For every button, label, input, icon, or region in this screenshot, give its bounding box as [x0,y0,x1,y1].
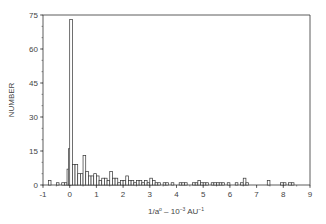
x-tick-label: 9 [308,190,313,199]
x-tick-label: 1 [94,190,99,199]
x-tick-label: 2 [121,190,126,199]
histogram-bar [48,180,51,185]
histogram-bar [150,178,153,185]
histogram-bar [83,156,86,185]
x-tick-label: 8 [281,190,286,199]
histogram-bar [110,171,113,185]
histogram-bar [126,176,129,185]
x-axis-title: 1/ao – 10−3 AU−1 [148,206,204,216]
histogram-bar [267,180,270,185]
histogram-bar [115,178,118,185]
histogram-bar [107,180,110,185]
histogram-bar [171,183,174,185]
histogram-bar [56,183,59,185]
x-tick-label: -1 [39,190,47,199]
histogram-bar [163,183,166,185]
x-axis-ticks: -10123456789 [39,185,312,199]
histogram-bar [241,183,244,185]
y-tick-label: 30 [29,113,38,122]
x-tick-label: 6 [228,190,233,199]
histogram-bar [112,178,115,185]
y-axis-title: NUMBER [7,82,16,117]
histogram-bar [214,183,217,185]
histogram-bar [152,180,155,185]
histogram-bar [243,178,246,185]
histogram-chart: -10123456789 01530456075 NUMBER 1/ao – 1… [0,0,326,224]
histogram-bar [201,183,204,185]
histogram-bar [128,180,131,185]
histogram-bar [134,183,137,185]
histogram-bar [179,183,182,185]
histogram-bar [75,165,78,185]
histogram-bar [144,180,147,185]
histogram-bar [78,174,81,185]
y-tick-label: 60 [29,45,38,54]
y-tick-label: 15 [29,147,38,156]
histogram-bar [211,183,214,185]
histogram-bar [155,183,158,185]
histogram-bar [219,183,222,185]
x-tick-label: 7 [254,190,259,199]
histogram-bar [166,183,169,185]
histogram-bar [86,171,89,185]
histogram-bar [131,180,134,185]
histogram-bar [246,183,249,185]
histogram-bar [88,176,91,185]
histogram-bar [195,183,198,185]
histogram-bar [72,165,75,185]
histogram-bar [104,178,107,185]
y-axis-ticks: 01530456075 [29,11,43,190]
histogram-bar [99,180,102,185]
histogram-bar [139,180,142,185]
histogram-bar [94,174,97,185]
histogram-bar [193,183,196,185]
histogram-bar [182,183,185,185]
histogram-bar [62,183,65,185]
x-tick-label: 4 [174,190,179,199]
y-tick-label: 0 [34,181,39,190]
histogram-bar [206,183,209,185]
histogram-bar [147,183,150,185]
histogram-bar [142,183,145,185]
y-tick-label: 45 [29,79,38,88]
x-tick-label: 0 [67,190,72,199]
x-tick-label: 5 [201,190,206,199]
histogram-bar [123,180,126,185]
histogram-bar [96,176,99,185]
x-tick-label: 3 [148,190,153,199]
y-tick-label: 75 [29,11,38,20]
histogram-bar [118,183,121,185]
histogram-bar [281,183,284,185]
histogram-bars [48,20,294,185]
histogram-bar [289,183,292,185]
histogram-bar [80,174,83,185]
histogram-bar [185,183,188,185]
histogram-bar [217,183,220,185]
histogram-bar [70,20,73,185]
histogram-bar [158,183,161,185]
histogram-bar [120,180,123,185]
histogram-bar [102,178,105,185]
histogram-bar [91,176,94,185]
histogram-bar [283,183,286,185]
histogram-bar [222,183,225,185]
histogram-bar [198,180,201,185]
histogram-bar [227,183,230,185]
histogram-bar [136,180,139,185]
histogram-bar [203,183,206,185]
histogram-bar [235,183,238,185]
histogram-bar [64,183,67,185]
histogram-bar [291,183,294,185]
